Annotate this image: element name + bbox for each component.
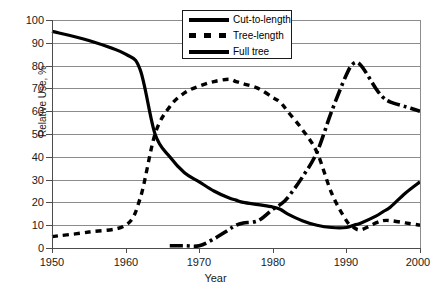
- y-tick-label-20: 20: [4, 197, 44, 208]
- legend-swatch-dashed-icon: [189, 33, 229, 38]
- y-axis-title: Relative Use, %: [37, 42, 48, 162]
- legend-label-tree-length: Tree-length: [233, 29, 284, 42]
- x-tick-label-1980: 1980: [248, 256, 298, 268]
- plot-right-border: [420, 20, 421, 249]
- x-axis-title: Year: [0, 272, 431, 284]
- y-tick-label-30: 30: [4, 175, 44, 186]
- y-axis-line: [52, 20, 53, 249]
- legend-label-cut-to-length: Cut-to-length: [233, 13, 291, 26]
- legend-item-cut-to-length[interactable]: Cut-to-length: [183, 12, 291, 27]
- series-path-cut-to-length: [52, 31, 420, 227]
- chart-legend: Cut-to-length Tree-length Full tree: [182, 10, 292, 59]
- x-axis-line: [52, 248, 421, 249]
- legend-swatch-dashdot-icon: [189, 50, 229, 54]
- y-tick-label-10: 10: [4, 220, 44, 231]
- legend-item-full-tree[interactable]: Full tree: [183, 44, 291, 59]
- x-tick-2000: [420, 248, 421, 253]
- legend-item-tree-length[interactable]: Tree-length: [183, 28, 291, 43]
- chart-figure: 100 90 80 70 60 50 40 30 20 10 0 Relativ…: [0, 0, 431, 290]
- x-tick-label-1960: 1960: [101, 256, 151, 268]
- x-tick-1960: [126, 248, 127, 253]
- y-tick-label-0: 0: [4, 243, 44, 254]
- caption-remnant: [0, 0, 431, 7]
- x-tick-label-1950: 1950: [27, 256, 77, 268]
- x-tick-1990: [346, 248, 347, 253]
- legend-swatch-solid-icon: [189, 18, 229, 22]
- x-tick-1980: [273, 248, 274, 253]
- x-tick-label-1970: 1970: [174, 256, 224, 268]
- x-tick-1950: [52, 248, 53, 253]
- x-tick-label-1990: 1990: [321, 256, 371, 268]
- y-tick-label-100: 100: [4, 15, 44, 26]
- x-tick-1970: [199, 248, 200, 253]
- series-path-tree-length: [52, 79, 420, 236]
- x-tick-label-2000: 2000: [393, 256, 431, 268]
- legend-label-full-tree: Full tree: [233, 45, 269, 58]
